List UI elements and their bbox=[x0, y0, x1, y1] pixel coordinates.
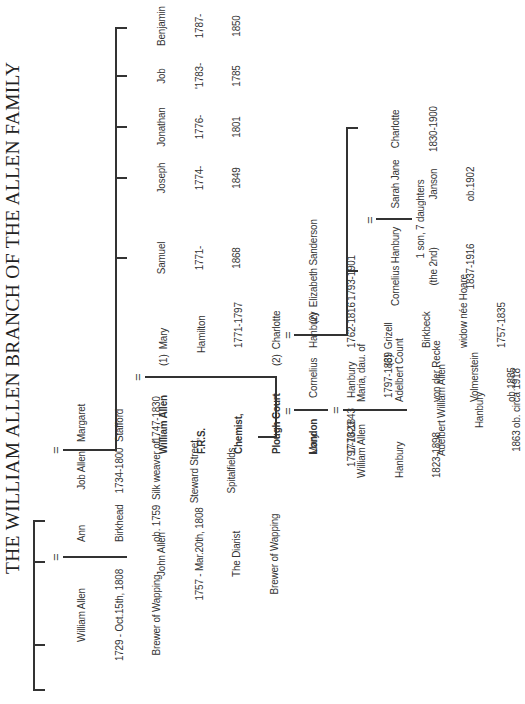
person-adelbert-william-allen-hanbury: Adelbert William Allen Hanbury 1863 ob. … bbox=[410, 355, 525, 465]
marriage-symbol: = bbox=[132, 373, 144, 381]
tree-line bbox=[294, 409, 328, 411]
marriage-symbol: = bbox=[282, 331, 294, 339]
tree-line bbox=[33, 689, 45, 691]
sibling-job: Job '1783- 1785 bbox=[130, 58, 268, 94]
marriage-symbol: = bbox=[330, 406, 342, 414]
tree-line bbox=[33, 644, 45, 646]
tree-line bbox=[115, 27, 117, 451]
tree-line bbox=[115, 257, 127, 259]
person-sarah-jane-janson: Sarah Jane Janson ob.1902 bbox=[364, 158, 502, 210]
tree-line bbox=[115, 27, 127, 29]
tree-line bbox=[376, 218, 412, 220]
tree-line bbox=[275, 376, 277, 438]
tree-line bbox=[346, 127, 358, 129]
tree-line bbox=[115, 177, 127, 179]
sibling-samuel: Samuel 1771- 1868 bbox=[130, 240, 268, 276]
tree-line bbox=[63, 556, 127, 558]
tree-line bbox=[346, 129, 348, 336]
person-john-allen: John Allen 1757 - Mar.20th, 1808 The Dia… bbox=[130, 502, 305, 605]
tree-line bbox=[343, 409, 407, 411]
tree-line bbox=[145, 376, 275, 378]
tree-line bbox=[33, 520, 35, 691]
marriage-symbol: = bbox=[364, 216, 376, 224]
marriage-symbol: = bbox=[50, 446, 62, 454]
tree-line bbox=[33, 561, 45, 563]
sibling-jonathan: Jonathan 1776- 1801 bbox=[130, 107, 268, 147]
person-charlotte: Charlotte 1830-1900 bbox=[364, 99, 464, 159]
page-title: THE WILLIAM ALLEN BRANCH OF THE ALLEN FA… bbox=[2, 84, 24, 574]
children-note: 1 son, 7 daughters bbox=[414, 172, 427, 267]
tree-line bbox=[33, 520, 45, 522]
tree-line bbox=[63, 449, 115, 451]
tree-line bbox=[115, 126, 127, 128]
sibling-joseph: Joseph 1774- 1849 bbox=[130, 160, 268, 196]
tree-line bbox=[326, 334, 348, 336]
tree-line bbox=[346, 270, 358, 272]
sibling-benjamin: Benjamin 1787- 1850 bbox=[130, 5, 268, 46]
tree-line bbox=[294, 334, 328, 336]
person-cornelius-hanbury-2nd: Cornelius Hanbury (the 2nd) 1837-1916 bbox=[364, 226, 502, 308]
tree-line bbox=[115, 75, 127, 77]
marriage-symbol: = bbox=[282, 407, 294, 415]
marriage-symbol: = bbox=[50, 553, 62, 561]
tree-line bbox=[258, 436, 277, 438]
